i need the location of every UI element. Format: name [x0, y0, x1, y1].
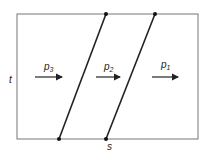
point	[57, 137, 61, 141]
point	[104, 12, 108, 16]
label-p1: p1	[160, 59, 171, 71]
axis-label-s: s	[107, 141, 112, 152]
point	[153, 12, 157, 16]
axis-label-t: t	[9, 74, 13, 85]
label-p2: p2	[103, 61, 114, 73]
diagram: p3 p2 p1 t s	[0, 0, 210, 159]
label-p3: p3	[43, 61, 54, 73]
